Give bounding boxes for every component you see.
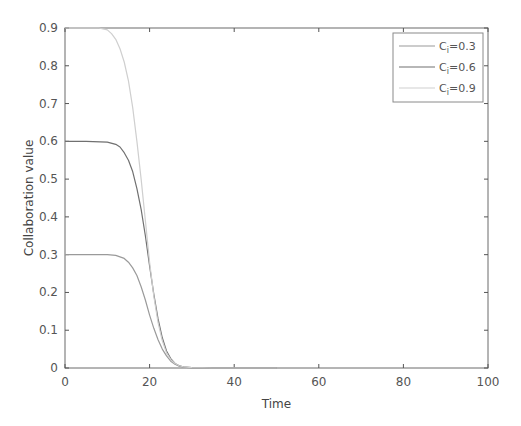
x-tick-label: 100 (477, 375, 500, 389)
legend-label-value: =0.3 (449, 40, 476, 53)
y-tick-label: 0.1 (39, 323, 58, 337)
x-axis-label: Time (261, 397, 291, 411)
legend-label-value: =0.6 (449, 61, 476, 74)
y-tick-label: 0.9 (39, 21, 58, 35)
y-tick-label: 0.4 (39, 210, 58, 224)
x-tick-label: 40 (227, 375, 242, 389)
legend-entry-label: Ci=0.9 (439, 82, 476, 97)
x-tick-label: 80 (396, 375, 411, 389)
x-tick-label: 0 (61, 375, 69, 389)
legend: Ci=0.3Ci=0.6Ci=0.9 (393, 33, 483, 102)
x-tick-label: 60 (311, 375, 326, 389)
line-chart: 020406080100 00.10.20.30.40.50.60.70.80.… (0, 0, 521, 426)
series-line-1 (65, 255, 277, 368)
y-tick-label: 0.3 (39, 248, 58, 262)
y-tick-label: 0.8 (39, 59, 58, 73)
y-axis-label: Collaboration value (22, 140, 36, 257)
y-tick-label: 0.2 (39, 285, 58, 299)
legend-label-value: =0.9 (449, 82, 476, 95)
y-tick-label: 0.6 (39, 134, 58, 148)
y-tick-label: 0 (50, 361, 58, 375)
y-tick-label: 0.5 (39, 172, 58, 186)
series-line-3 (65, 28, 277, 368)
legend-entry-label: Ci=0.6 (439, 61, 476, 76)
y-tick-label: 0.7 (39, 97, 58, 111)
legend-entry-label: Ci=0.3 (439, 40, 476, 55)
x-tick-label: 20 (142, 375, 157, 389)
series-lines (65, 28, 277, 368)
